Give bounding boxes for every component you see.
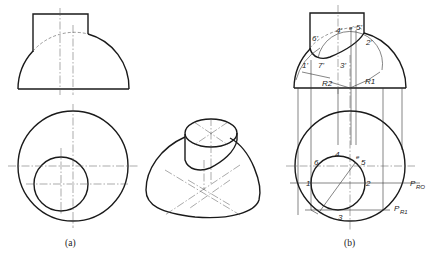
svg-text:5: 5 xyxy=(361,158,366,167)
svg-text:3: 3 xyxy=(338,213,343,222)
svg-text:RO: RO xyxy=(416,184,425,190)
svg-text:R1: R1 xyxy=(400,209,408,215)
front-view-a xyxy=(18,8,129,95)
caption-b: (b) xyxy=(344,238,355,249)
svg-text:1: 1 xyxy=(306,179,310,188)
svg-text:R1: R1 xyxy=(365,77,375,86)
svg-text:6': 6' xyxy=(312,34,318,43)
caption-a: (a) xyxy=(65,238,76,249)
svg-text:7': 7' xyxy=(318,61,324,70)
svg-text:4: 4 xyxy=(335,150,340,159)
svg-text:6: 6 xyxy=(314,158,319,167)
svg-text:2: 2 xyxy=(365,179,371,188)
svg-text:2': 2' xyxy=(365,38,372,47)
svg-text:e': e' xyxy=(349,25,354,31)
svg-text:e: e xyxy=(356,154,360,160)
svg-text:3': 3' xyxy=(340,61,346,70)
svg-text:5': 5' xyxy=(356,23,362,32)
top-view-a xyxy=(8,104,138,228)
svg-text:4': 4' xyxy=(336,26,342,35)
isometric-view xyxy=(146,118,260,218)
svg-text:R2: R2 xyxy=(322,79,333,88)
labels-top-b: 4 e 5 6 1 2 3 P RO P R1 xyxy=(306,150,425,222)
projection-drawing: (a) xyxy=(0,0,426,259)
svg-text:1': 1' xyxy=(302,61,308,70)
